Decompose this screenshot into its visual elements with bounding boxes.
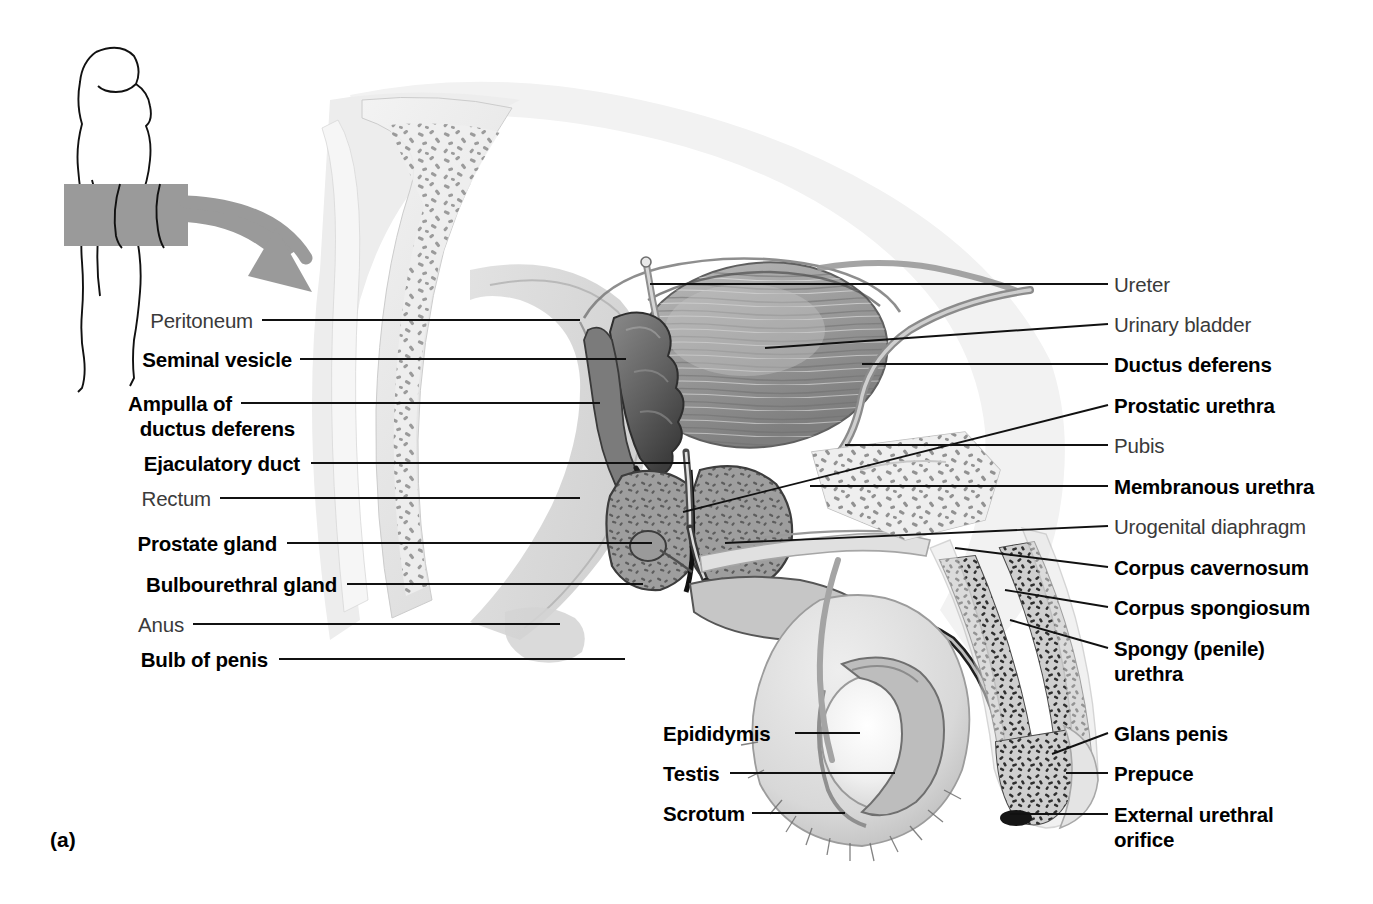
label-peritoneum: Peritoneum [150,309,253,333]
region-highlight-box [64,184,188,246]
label-testis: Testis [663,762,720,786]
label-urinary-bladder: Urinary bladder [1114,313,1251,337]
sacrum [322,97,512,618]
curved-arrow-icon [186,202,312,292]
label-external-urethral: External urethral [1114,803,1274,827]
label-pubis: Pubis [1114,434,1164,458]
label-prostatic-urethra: Prostatic urethra [1114,394,1275,418]
label-scrotum: Scrotum [663,802,745,826]
label-orifice: orifice [1114,828,1174,852]
label-ejaculatory-duct: Ejaculatory duct [144,452,300,476]
label-membranous-urethra: Membranous urethra [1114,475,1314,499]
label-ductus-deferens: Ductus deferens [1114,353,1272,377]
label-ampulla-of: Ampulla of [128,392,232,416]
label-prepuce: Prepuce [1114,762,1194,786]
label-bulb-of-penis: Bulb of penis [141,648,268,672]
label-bulbourethral-gland: Bulbourethral gland [146,573,337,597]
label-urogenital-diaphragm: Urogenital diaphragm [1114,515,1306,539]
label-seminal-vesicle: Seminal vesicle [142,348,292,372]
label-rectum: Rectum [142,487,211,511]
label-glans-penis: Glans penis [1114,722,1228,746]
label-ureter: Ureter [1114,273,1170,297]
label-urethra: urethra [1114,662,1183,686]
label-prostate-gland: Prostate gland [137,532,277,556]
anatomy-figure: PeritoneumSeminal vesicleAmpulla ofductu… [0,0,1373,904]
external-urethral-orifice [1000,810,1032,826]
body-silhouette-icon [64,48,188,392]
label-corpus-cavernosum: Corpus cavernosum [1114,556,1309,580]
label-spongy-penile: Spongy (penile) [1114,637,1265,661]
label-ductus-deferens: ductus deferens [140,417,295,441]
anus [505,607,585,662]
label-anus: Anus [138,613,184,637]
figure-letter: (a) [50,828,76,852]
label-corpus-spongiosum: Corpus spongiosum [1114,596,1310,620]
label-epididymis: Epididymis [663,722,770,746]
